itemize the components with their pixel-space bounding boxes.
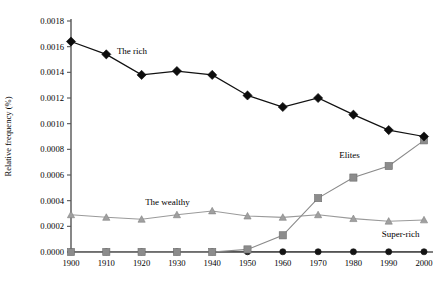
data-point-the-rich — [314, 93, 323, 102]
data-point-elites — [103, 248, 110, 255]
data-point-the-rich — [66, 37, 75, 46]
y-tick-label: 0.0006 — [40, 170, 64, 180]
line-chart: 0.00000.00020.00040.00060.00080.00100.00… — [0, 0, 441, 281]
y-tick-label: 0.0002 — [40, 221, 64, 231]
data-point-elites — [209, 248, 216, 255]
data-point-super-rich — [315, 249, 321, 255]
chart-container: 0.00000.00020.00040.00060.00080.00100.00… — [0, 0, 441, 281]
x-tick-label: 1910 — [98, 258, 115, 268]
data-point-the-rich — [102, 50, 111, 59]
data-point-the-rich — [208, 70, 217, 79]
data-point-elites — [67, 248, 74, 255]
x-tick-label: 1980 — [345, 258, 362, 268]
data-point-the-rich — [278, 102, 287, 111]
data-point-super-rich — [350, 249, 356, 255]
y-tick-label: 0.0008 — [40, 144, 64, 154]
data-point-super-rich — [386, 249, 392, 255]
x-tick-label: 2000 — [415, 258, 432, 268]
data-point-elites — [350, 174, 357, 181]
y-tick-label: 0.0012 — [40, 93, 64, 103]
data-point-the-wealthy — [209, 207, 216, 214]
series-label-the-wealthy: The wealthy — [145, 197, 190, 207]
data-point-super-rich — [280, 249, 286, 255]
y-tick-label: 0.0004 — [40, 196, 64, 206]
data-point-the-rich — [243, 91, 252, 100]
series-label-super-rich: Super-rich — [382, 229, 420, 239]
x-tick-label: 1940 — [204, 258, 221, 268]
x-tick-label: 1990 — [380, 258, 397, 268]
x-tick-label: 1950 — [239, 258, 256, 268]
x-tick-label: 1960 — [274, 258, 291, 268]
x-tick-label: 1920 — [133, 258, 150, 268]
y-tick-label: 0.0014 — [40, 67, 64, 77]
series-label-elites: Elites — [339, 150, 360, 160]
y-axis-ticks: 0.00000.00020.00040.00060.00080.00100.00… — [40, 16, 71, 257]
data-point-the-rich — [384, 125, 393, 134]
y-axis-title: Relative frequency (%) — [3, 96, 13, 176]
data-point-elites — [244, 246, 251, 253]
x-tick-label: 1970 — [310, 258, 327, 268]
data-point-the-rich — [349, 110, 358, 119]
y-tick-label: 0.0000 — [40, 247, 64, 257]
y-tick-label: 0.0010 — [40, 119, 64, 129]
data-point-the-rich — [137, 70, 146, 79]
data-point-the-rich — [172, 66, 181, 75]
data-point-super-rich — [421, 249, 427, 255]
series-markers-group — [66, 37, 428, 256]
series-label-the-rich: The rich — [117, 46, 148, 56]
data-point-elites — [173, 248, 180, 255]
x-tick-label: 1930 — [168, 258, 185, 268]
x-tick-label: 1900 — [62, 258, 79, 268]
x-axis-ticks: 1900191019201930194019501960197019801990… — [62, 258, 432, 268]
data-point-elites — [315, 195, 322, 202]
data-point-elites — [279, 232, 286, 239]
series-lines-group — [71, 42, 424, 252]
y-tick-label: 0.0018 — [40, 16, 64, 26]
y-tick-label: 0.0016 — [40, 42, 64, 52]
data-point-elites — [138, 248, 145, 255]
series-annotations-group: The wealthySuper-richElitesThe rich — [117, 46, 420, 238]
series-line-elites — [71, 140, 424, 252]
data-point-elites — [385, 162, 392, 169]
